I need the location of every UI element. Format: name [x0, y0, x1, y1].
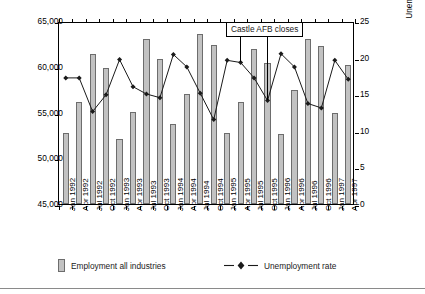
- chart-legend: Employment all industries Unemployment r…: [58, 258, 354, 274]
- x-tick-top: [220, 19, 221, 23]
- x-tick-label-apr-1995: Apr 1995: [243, 178, 252, 211]
- x-tick-label-oct-1994: Oct 1994: [216, 178, 225, 211]
- x-tick-label-oct-1992: Oct 1992: [108, 178, 117, 211]
- x-tick-top: [86, 19, 87, 23]
- datapoint-oct-1994: [211, 117, 216, 122]
- x-tick-top: [342, 19, 343, 23]
- x-tick-label-jul-1993: Jul 1993: [149, 180, 158, 211]
- x-tick-top: [72, 19, 73, 23]
- y-tick-label-right: 5: [360, 162, 365, 172]
- x-tick-top: [140, 19, 141, 23]
- x-tick-label-jul-1995: Jul 1995: [256, 180, 265, 211]
- x-tick-label-jul-1996: Jul 1996: [310, 180, 319, 211]
- y-tick-label-left: 45,000: [38, 199, 63, 209]
- x-tick-top: [167, 19, 168, 23]
- x-tick-top: [194, 19, 195, 23]
- datapoint-jan-1992: [63, 75, 68, 80]
- datapoint-apr-1993: [131, 84, 136, 89]
- x-tick-label-apr-1994: Apr 1994: [189, 178, 198, 211]
- datapoint-oct-1996: [319, 105, 324, 110]
- y-tick-label-right: 0: [360, 199, 365, 209]
- y-tick-label-left: 60,000: [38, 62, 63, 72]
- x-tick-top: [113, 19, 114, 23]
- datapoint-oct-1993: [157, 95, 162, 100]
- datapoint-jan-1993: [117, 57, 122, 62]
- annotation-leader-line: [267, 35, 268, 100]
- footer-divider: [0, 288, 425, 289]
- x-tick-label-oct-1995: Oct 1995: [270, 178, 279, 211]
- y-axis-right-title: Unemployment rate (%): [404, 0, 414, 50]
- x-tick-label-oct-1996: Oct 1996: [324, 178, 333, 211]
- legend-label-unemployment: Unemployment rate: [264, 261, 336, 271]
- datapoint-jul-1994: [198, 91, 203, 96]
- y-tick-right: [355, 96, 359, 97]
- x-tick-label-jan-1997: Jan 1997: [337, 178, 346, 211]
- x-tick-top: [328, 19, 329, 23]
- y-tick-right: [355, 133, 359, 134]
- x-tick-label-jan-1992: Jan 1992: [68, 178, 77, 211]
- x-tick-top: [180, 19, 181, 23]
- datapoint-jan-1995: [225, 58, 230, 63]
- annotation-leader-line: [240, 35, 241, 62]
- x-tick-top: [126, 19, 127, 23]
- y-tick-label-right: 25: [360, 16, 369, 26]
- x-tick-label-apr-1993: Apr 1993: [135, 178, 144, 211]
- y-tick-label-left: 65,000: [38, 16, 63, 26]
- x-tick-label-apr-1992: Apr 1992: [81, 178, 90, 211]
- y-tick-label-right: 20: [360, 53, 369, 63]
- y-tick-label-right: 10: [360, 126, 369, 136]
- x-tick-top: [207, 19, 208, 23]
- legend-label-employment: Employment all industries: [71, 261, 166, 271]
- chart-figure: Employment all industries Unemployment r…: [0, 0, 425, 294]
- datapoint-jul-1996: [305, 101, 310, 106]
- legend-swatch-employment: [58, 259, 65, 272]
- x-tick-top: [315, 19, 316, 23]
- x-tick-label-oct-1993: Oct 1993: [162, 178, 171, 211]
- x-tick-label-apr-1997: Apr 1997: [350, 178, 359, 211]
- y-tick-right: [355, 23, 359, 24]
- x-tick-top: [153, 19, 154, 23]
- y-tick-label-left: 50,000: [38, 153, 63, 163]
- y-tick-right: [355, 60, 359, 61]
- x-tick-label-jan-1996: Jan 1996: [283, 178, 292, 211]
- datapoint-apr-1992: [77, 75, 82, 80]
- x-tick-label-jul-1992: Jul 1992: [95, 180, 104, 211]
- datapoint-jul-1993: [144, 92, 149, 97]
- x-tick-top: [99, 19, 100, 23]
- y-tick-label-right: 15: [360, 89, 369, 99]
- x-tick-label-jul-1994: Jul 1994: [202, 180, 211, 211]
- x-tick-label-jan-1995: Jan 1995: [229, 178, 238, 211]
- plot-area: [58, 22, 354, 205]
- legend-marker-unemployment: [224, 258, 258, 273]
- y-tick-right: [355, 169, 359, 170]
- unemployment-line-series: [59, 23, 355, 206]
- x-tick-label-jan-1994: Jan 1994: [176, 178, 185, 211]
- x-tick-label-jan-1993: Jan 1993: [122, 178, 131, 211]
- annotation-castle-afb-closes: Castle AFB closes: [226, 22, 303, 37]
- y-tick-label-left: 55,000: [38, 108, 63, 118]
- x-tick-label-apr-1996: Apr 1996: [297, 178, 306, 211]
- x-tick-top: [355, 19, 356, 23]
